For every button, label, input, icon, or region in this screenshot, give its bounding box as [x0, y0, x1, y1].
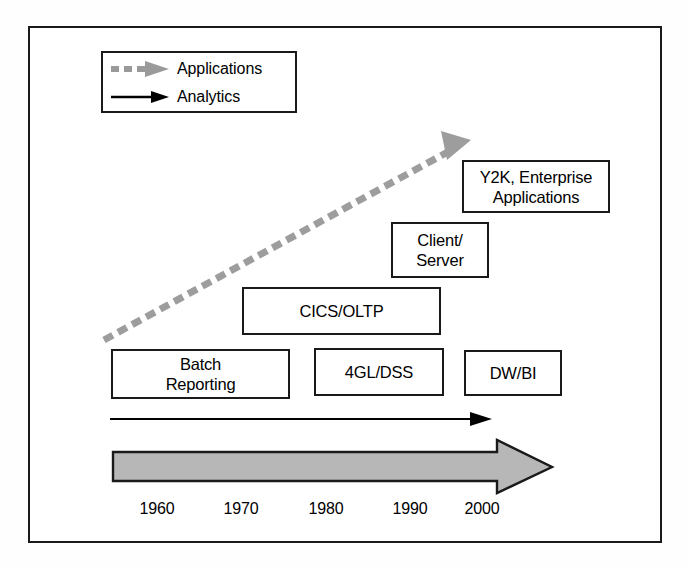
- box-client-server-label: Client/ Server: [410, 230, 469, 270]
- axis-tick-1990: 1990: [384, 500, 436, 518]
- legend-label-applications: Applications: [177, 60, 262, 78]
- solid-arrow-icon: [103, 85, 177, 109]
- box-client-server: Client/ Server: [391, 222, 489, 278]
- box-4gl-dss-label: 4GL/DSS: [339, 362, 419, 382]
- box-batch-reporting-label: Batch Reporting: [160, 354, 242, 394]
- diagram-canvas: Applications Analytics: [0, 0, 689, 566]
- box-cics-oltp-label: CICS/OLTP: [293, 301, 389, 321]
- box-dw-bi-label: DW/BI: [484, 363, 543, 383]
- axis-tick-1970: 1970: [215, 500, 267, 518]
- legend-item-analytics: Analytics: [103, 83, 295, 111]
- box-dw-bi: DW/BI: [464, 350, 562, 396]
- legend-item-applications: Applications: [103, 55, 295, 83]
- axis-tick-1960: 1960: [131, 500, 183, 518]
- box-y2k-enterprise-applications: Y2K, Enterprise Applications: [462, 160, 610, 213]
- legend-label-analytics: Analytics: [177, 88, 240, 106]
- dashed-arrow-icon: [103, 57, 177, 81]
- box-cics-oltp: CICS/OLTP: [242, 287, 441, 335]
- axis-tick-1980: 1980: [300, 500, 352, 518]
- box-y2k-label: Y2K, Enterprise Applications: [474, 167, 599, 207]
- axis-tick-2000: 2000: [456, 500, 508, 518]
- legend-box: Applications Analytics: [101, 51, 297, 113]
- box-batch-reporting: Batch Reporting: [111, 349, 290, 399]
- box-4gl-dss: 4GL/DSS: [314, 348, 444, 396]
